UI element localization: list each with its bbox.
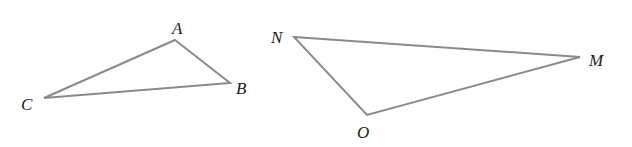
- vertex-label-c: C: [21, 95, 33, 114]
- vertex-label-a: A: [171, 19, 183, 38]
- triangle-nmo: [294, 37, 580, 115]
- vertex-label-n: N: [270, 28, 284, 47]
- vertex-label-m: M: [588, 51, 604, 70]
- vertex-label-b: B: [236, 79, 247, 98]
- two-triangles-diagram: A B C N M O: [0, 0, 632, 147]
- vertex-label-o: O: [357, 123, 369, 142]
- triangle-abc: [44, 40, 230, 98]
